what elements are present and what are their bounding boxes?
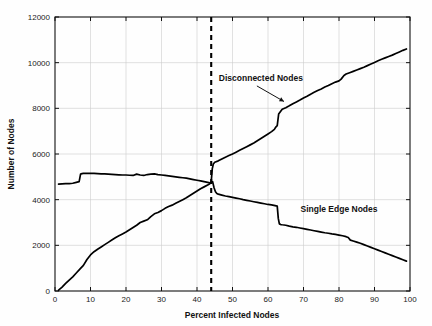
x-tick-label: 50 xyxy=(228,295,237,304)
x-tick-label: 30 xyxy=(157,295,166,304)
chart-plot-area: 0102030405060708090100020004000600080001… xyxy=(0,0,432,326)
annotation-label-0: Disconnected Nodes xyxy=(219,73,303,83)
y-tick-label: 10000 xyxy=(28,59,51,68)
y-axis-title: Number of Nodes xyxy=(6,118,16,189)
y-tick-label: 2000 xyxy=(32,241,50,250)
x-tick-label: 60 xyxy=(264,295,273,304)
x-tick-label: 40 xyxy=(193,295,202,304)
y-tick-label: 0 xyxy=(46,287,51,296)
y-tick-label: 12000 xyxy=(28,13,51,22)
annotation-arrow-line-0 xyxy=(257,86,284,102)
x-tick-label: 90 xyxy=(370,295,379,304)
chart-figure: 0102030405060708090100020004000600080001… xyxy=(0,0,432,326)
annotation-label-1: Single Edge Nodes xyxy=(301,204,378,214)
x-axis-title: Percent Infected Nodes xyxy=(185,310,280,320)
y-tick-label: 8000 xyxy=(32,104,50,113)
y-tick-label: 6000 xyxy=(32,150,50,159)
x-tick-label: 100 xyxy=(403,295,417,304)
x-tick-label: 0 xyxy=(53,295,58,304)
x-tick-label: 20 xyxy=(122,295,131,304)
x-tick-label: 10 xyxy=(86,295,95,304)
y-tick-label: 4000 xyxy=(32,196,50,205)
x-tick-label: 70 xyxy=(299,295,308,304)
annotations: Disconnected NodesSingle Edge Nodes xyxy=(219,73,378,214)
x-tick-label: 80 xyxy=(335,295,344,304)
